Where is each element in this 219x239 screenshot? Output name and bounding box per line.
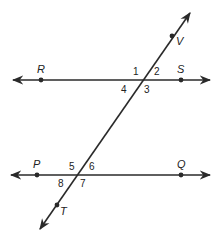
point-s xyxy=(179,78,184,83)
label-r: R xyxy=(37,63,45,75)
angle-7-label: 7 xyxy=(80,178,86,189)
transversal-vt xyxy=(40,13,190,229)
point-p xyxy=(35,173,40,178)
geometry-diagram: R S P Q V T 1 2 3 4 5 6 7 8 xyxy=(0,0,219,239)
label-q: Q xyxy=(177,158,186,170)
label-p: P xyxy=(33,158,41,170)
angle-1-label: 1 xyxy=(133,66,139,77)
point-q xyxy=(179,173,184,178)
label-s: S xyxy=(177,63,185,75)
label-v: V xyxy=(176,35,185,47)
point-r xyxy=(39,78,44,83)
angle-4-label: 4 xyxy=(121,84,127,95)
label-t: T xyxy=(60,205,68,217)
angle-6-label: 6 xyxy=(89,161,95,172)
angle-5-label: 5 xyxy=(69,161,75,172)
point-v xyxy=(170,34,175,39)
angle-8-label: 8 xyxy=(58,178,64,189)
point-t xyxy=(55,203,60,208)
angle-3-label: 3 xyxy=(144,84,150,95)
angle-2-label: 2 xyxy=(154,66,160,77)
